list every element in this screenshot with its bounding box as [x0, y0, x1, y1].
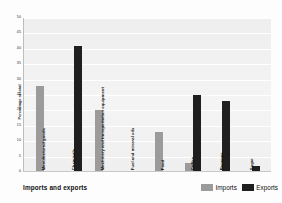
- y-axis-tick-label: 20: [17, 109, 21, 113]
- category-label: Manufactured goods: [42, 128, 46, 170]
- legend-title: Imports and exports: [23, 184, 87, 191]
- y-axis-tick-label: 35: [17, 62, 21, 66]
- y-axis-tick-label: 10: [17, 139, 21, 143]
- chart-figure: Percentage of total 05101520253035404550…: [0, 0, 282, 203]
- category-label: Fuel and mineral oils: [131, 127, 135, 170]
- bar-group: Fuel and mineral oils: [118, 18, 148, 172]
- legend-entry[interactable]: Imports: [201, 184, 237, 191]
- legend-label: Exports: [256, 184, 278, 191]
- bar-group: Food: [148, 18, 178, 172]
- y-axis-tick-label: 5: [19, 155, 21, 159]
- y-axis-tick-label: 30: [17, 78, 21, 82]
- plot-area: 05101520253035404550 Manufactured goodsC…: [23, 18, 271, 172]
- legend-swatch: [201, 184, 213, 191]
- y-axis-tick-label: 0: [19, 170, 21, 174]
- legend-row: Imports and exports ImportsExports: [23, 180, 278, 194]
- legend-swatch: [242, 184, 254, 191]
- bar-group: Bananas: [208, 18, 238, 172]
- legend-entry[interactable]: Exports: [242, 184, 278, 191]
- bar-group: Sugar: [237, 18, 267, 172]
- y-axis-tick-label: 25: [17, 93, 21, 97]
- y-axis-title: Percentage of total: [18, 84, 22, 119]
- bar-group: Manufactured goods: [29, 18, 59, 172]
- category-label: Coffee: [191, 157, 195, 170]
- bar-groups: Manufactured goodsChemicalsMachinery and…: [23, 18, 271, 172]
- bar-group: Machinery and transportation equipment: [89, 18, 119, 172]
- y-axis-tick-label: 50: [17, 16, 21, 20]
- category-label: Chemicals: [72, 149, 76, 170]
- category-label: Sugar: [250, 158, 254, 170]
- legend-items: ImportsExports: [201, 184, 278, 191]
- y-axis-tick-label: 40: [17, 47, 21, 51]
- category-label: Food: [161, 160, 165, 170]
- bar-group: Coffee: [178, 18, 208, 172]
- category-label: Bananas: [220, 152, 224, 170]
- bar-group: Chemicals: [59, 18, 89, 172]
- x-axis-line: [23, 171, 271, 172]
- legend-label: Imports: [216, 184, 237, 191]
- y-axis-tick-label: 45: [17, 32, 21, 36]
- y-axis-tick-label: 15: [17, 124, 21, 128]
- category-label: Machinery and transportation equipment: [101, 87, 105, 170]
